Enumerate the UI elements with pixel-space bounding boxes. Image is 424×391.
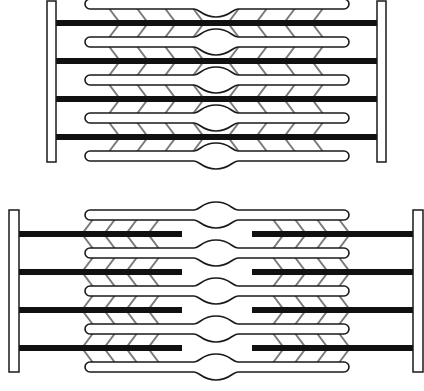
myosin-filament — [85, 354, 349, 380]
actin-bar — [19, 345, 182, 351]
myosin-filament — [85, 29, 349, 55]
myosin-filaments — [85, 202, 349, 380]
sarcomere-top — [47, 0, 386, 169]
sarcomere-diagram — [0, 0, 424, 391]
myosin-filament — [85, 202, 349, 228]
z-disc-left — [47, 1, 56, 162]
myosin-filament — [85, 0, 349, 17]
myosin-filament — [85, 240, 349, 266]
actin-bar — [19, 269, 182, 275]
actin-bar — [56, 20, 377, 26]
myosin-filament — [85, 143, 349, 169]
myosin-filament — [85, 278, 349, 304]
z-disc-right — [413, 210, 423, 372]
myosin-filament — [85, 316, 349, 342]
myosin-filament — [85, 105, 349, 131]
actin-bar — [19, 307, 182, 313]
actin-bar — [252, 269, 413, 275]
actin-bar — [252, 345, 413, 351]
sarcomere-bottom — [9, 202, 423, 380]
myosin-filament — [85, 67, 349, 93]
actin-bar — [56, 134, 377, 140]
actin-bar — [19, 231, 182, 237]
actin-bar — [56, 96, 377, 102]
actin-bar — [56, 58, 377, 64]
z-disc-left — [9, 210, 19, 372]
actin-bar — [252, 307, 413, 313]
actin-bar — [252, 231, 413, 237]
z-disc-right — [377, 1, 386, 162]
